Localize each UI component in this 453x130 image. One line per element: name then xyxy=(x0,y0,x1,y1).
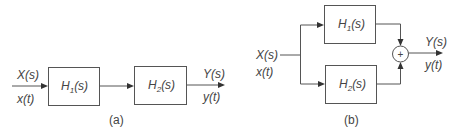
diagram-b-parallel: X(s) x(t) H1(s) H2(s) + Y(s) y(t) (b) xyxy=(255,6,447,128)
arrow-icon xyxy=(317,22,324,28)
caption-b: (b) xyxy=(344,113,359,127)
arrow-icon xyxy=(218,82,225,88)
output-freq-label-b: Y(s) xyxy=(425,35,447,49)
output-time-label-a: y(t) xyxy=(202,90,220,104)
output-freq-label-a: Y(s) xyxy=(203,67,225,81)
input-time-label-b: x(t) xyxy=(255,65,273,79)
arrow-icon xyxy=(127,83,134,89)
block-h2-b-label: H2(s) xyxy=(339,77,366,93)
block-h2-a-label: H2(s) xyxy=(148,78,175,94)
sum-plus-icon: + xyxy=(398,49,404,60)
caption-a: (a) xyxy=(109,113,124,127)
h2-to-sum-line xyxy=(376,68,401,84)
diagram-a-cascade: X(s) x(t) H1(s) H2(s) Y(s) y(t) (a) xyxy=(12,67,225,128)
block-h1-a-label: H1(s) xyxy=(61,79,88,95)
h1-to-sum-line xyxy=(375,24,401,40)
arrow-icon xyxy=(318,81,325,87)
input-time-label-a: x(t) xyxy=(16,92,34,106)
arrow-icon xyxy=(41,83,48,89)
input-freq-label-b: X(s) xyxy=(255,48,278,62)
input-freq-label-a: X(s) xyxy=(16,68,39,82)
arrow-icon xyxy=(436,50,443,56)
output-time-label-b: y(t) xyxy=(424,58,442,72)
arrow-icon xyxy=(398,39,404,46)
block-h1-b-label: H1(s) xyxy=(338,17,365,33)
arrow-icon xyxy=(398,62,404,69)
block-diagrams: X(s) x(t) H1(s) H2(s) Y(s) y(t) (a) X(s)… xyxy=(0,0,453,130)
